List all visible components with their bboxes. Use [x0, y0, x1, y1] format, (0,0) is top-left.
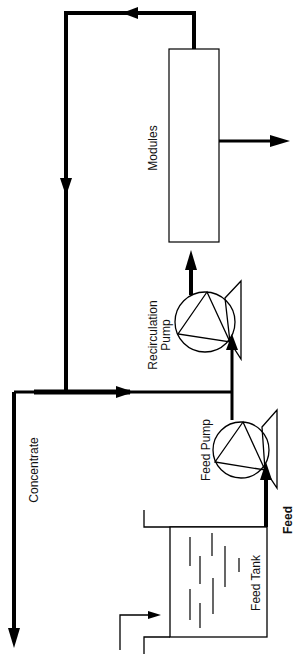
feed-label: Feed: [281, 506, 295, 534]
tank-inlet-line: [120, 611, 161, 650]
main-horizontal-line: [14, 386, 232, 398]
permeate-line: [219, 135, 290, 147]
feed-tank: Feed Tank: [144, 510, 267, 654]
feed-to-recirc-line: [226, 334, 238, 392]
recirculation-pump-label: Recirculation: [146, 300, 160, 369]
right-arrow-icon: [148, 611, 161, 619]
down-arrow-icon: [60, 178, 72, 196]
recirculation-pump: Recirculation Pump: [146, 281, 241, 370]
down-arrow-icon: [8, 628, 20, 648]
concentrate-label: Concentrate: [27, 437, 41, 503]
membrane-filtration-diagram: Modules Recirculation Pump Concentrate: [0, 0, 308, 660]
recirc-to-modules-line: [185, 250, 197, 295]
up-arrow-icon: [185, 250, 197, 270]
recirculation-pump-label-2: Pump: [159, 319, 173, 351]
concentrate-line: Concentrate: [8, 392, 41, 648]
feed-tank-label: Feed Tank: [249, 554, 263, 611]
modules-unit: Modules: [146, 49, 219, 242]
feed-pump-label: Feed Pump: [199, 419, 213, 481]
left-arrow-icon: [122, 7, 138, 19]
right-arrow-icon: [116, 386, 134, 398]
right-arrow-icon: [270, 135, 290, 147]
modules-label: Modules: [146, 125, 160, 170]
